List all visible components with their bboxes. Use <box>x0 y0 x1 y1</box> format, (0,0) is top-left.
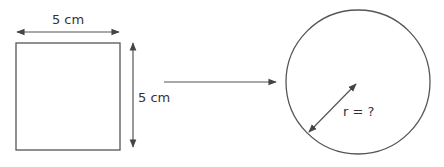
radius-label: r = ? <box>343 104 374 119</box>
width-label: 5 cm <box>52 12 84 27</box>
square-to-circle-diagram: 5 cm 5 cm r = ? <box>0 0 444 167</box>
circle-shape <box>286 10 430 154</box>
height-label: 5 cm <box>138 90 170 105</box>
square-shape <box>16 43 120 150</box>
width-dimension: 5 cm <box>17 12 119 32</box>
height-dimension: 5 cm <box>133 43 170 147</box>
